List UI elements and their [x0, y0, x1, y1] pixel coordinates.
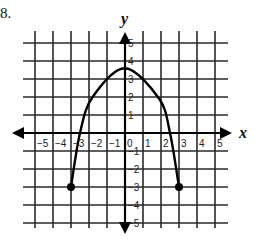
y-tick-label: −2: [128, 164, 140, 175]
y-tick-label: −4: [128, 200, 140, 211]
x-tick-label: 2: [163, 138, 169, 149]
y-tick-label: 2: [128, 92, 134, 103]
x-axis-label: x: [238, 124, 247, 141]
x-tick-label: 5: [217, 138, 223, 149]
y-tick-label: 4: [128, 56, 134, 67]
x-tick-label: 1: [145, 138, 151, 149]
x-tick-label: −4: [55, 138, 67, 149]
closed-endpoint-dot: [175, 183, 183, 191]
y-axis-label: y: [119, 10, 129, 28]
y-tick-label: −1: [128, 146, 140, 157]
y-tick-label: −5: [128, 218, 140, 229]
x-tick-label: 4: [199, 138, 205, 149]
x-tick-label: −2: [91, 138, 103, 149]
x-tick-label: −5: [37, 138, 49, 149]
x-tick-label: 3: [181, 138, 187, 149]
y-tick-label: 5: [128, 38, 134, 49]
y-tick-label: −3: [128, 182, 140, 193]
x-axis-left-arrow-icon: [12, 127, 24, 139]
y-tick-label: 1: [128, 110, 134, 121]
x-tick-label: −1: [109, 138, 121, 149]
parabola-graph: xy−5−4−3−2−1012345−5−4−3−2−112345: [0, 0, 259, 242]
closed-endpoint-dot: [67, 183, 75, 191]
y-tick-label: 3: [128, 74, 134, 85]
